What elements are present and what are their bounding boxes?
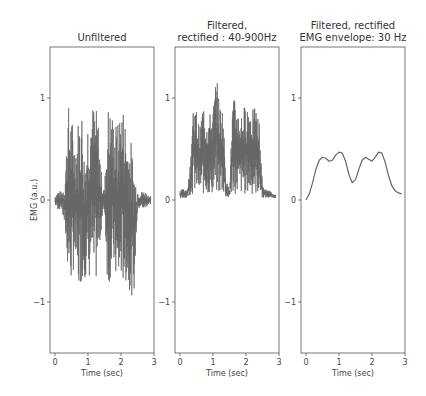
x-axis-label: Time (sec): [80, 369, 123, 378]
panel-title: Unfiltered: [77, 32, 126, 43]
y-tick-label: −1: [158, 298, 170, 307]
y-tick-label: 0: [291, 196, 296, 205]
x-tick-label: 0: [52, 358, 57, 367]
y-tick-label: 1: [165, 94, 170, 103]
plot-area: [301, 47, 405, 353]
y-axis-label: EMG (a.u.): [30, 179, 39, 221]
emg-trace: [55, 108, 151, 295]
emg-figure: EMG (a.u.) Unfiltered −101 0123 Time (se…: [0, 0, 426, 396]
x-tick-label: 2: [369, 358, 374, 367]
y-tick-label: −1: [284, 298, 296, 307]
x-tick-label: 3: [402, 358, 407, 367]
panel-title-line-2: rectified : 40-900Hz: [178, 32, 277, 43]
x-tick-label: 2: [243, 358, 248, 367]
y-tick-label: −1: [33, 298, 45, 307]
panel-envelope: Filtered, rectified EMG envelope: 30 Hz …: [284, 20, 407, 378]
y-tick-label: 1: [40, 94, 45, 103]
x-tick-label: 3: [276, 358, 281, 367]
x-tick-label: 3: [151, 358, 156, 367]
panel-title-line-2: EMG envelope: 30 Hz: [299, 32, 406, 43]
panel-unfiltered: Unfiltered −101 0123 Time (sec): [33, 32, 156, 378]
x-axis-label: Time (sec): [331, 369, 374, 378]
x-tick-label: 2: [118, 358, 123, 367]
emg-trace: [180, 83, 276, 198]
panel-title-line-1: Filtered,: [207, 20, 247, 31]
panel-filtered-rectified: Filtered, rectified : 40-900Hz −101 0123…: [158, 20, 281, 378]
x-axis-label: Time (sec): [205, 369, 248, 378]
y-tick-label: 0: [40, 196, 45, 205]
y-tick-label: 1: [291, 94, 296, 103]
plot-area: [175, 47, 279, 353]
x-tick-label: 1: [210, 358, 215, 367]
x-tick-label: 0: [177, 358, 182, 367]
x-tick-label: 1: [336, 358, 341, 367]
y-tick-label: 0: [165, 196, 170, 205]
x-tick-label: 0: [303, 358, 308, 367]
x-tick-label: 1: [85, 358, 90, 367]
panel-title-line-1: Filtered, rectified: [311, 20, 395, 31]
envelope-trace: [306, 152, 402, 200]
